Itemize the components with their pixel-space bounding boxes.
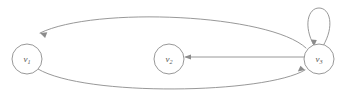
node-v3-label-sub: 3 <box>318 58 322 65</box>
node-v2[interactable]: v2 <box>154 44 184 74</box>
edge-v3-to-v2 <box>184 54 304 59</box>
node-v1[interactable]: v1 <box>12 44 42 74</box>
node-v1-label-sub: 1 <box>27 58 30 65</box>
directed-graph-diagram: v1 v2 v3 <box>0 0 341 103</box>
edge-path-self-loop-v3 <box>308 8 330 46</box>
edge-path-v3-v1 <box>40 17 306 48</box>
graph-canvas: v1 v2 v3 <box>0 0 341 103</box>
edge-v3-self-loop <box>308 8 330 47</box>
arrowhead-into-v1 <box>40 32 47 38</box>
node-v3[interactable]: v3 <box>304 44 334 74</box>
node-v2-label-sub: 2 <box>169 58 172 65</box>
arrowhead-into-v2 <box>184 54 191 59</box>
edge-v3-to-v1 <box>40 17 306 48</box>
